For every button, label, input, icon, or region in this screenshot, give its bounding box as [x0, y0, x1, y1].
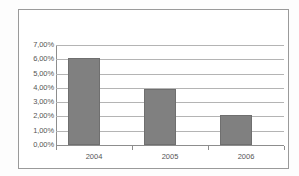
x-tick-label-2005: 2005	[132, 152, 208, 161]
y-axis-tick-labels: 7,00% 6,00% 5,00% 4,00% 3,00% 2,00% 1,00…	[19, 45, 54, 146]
chart-figure: 7,00% 6,00% 5,00% 4,00% 3,00% 2,00% 1,00…	[0, 0, 299, 176]
y-tick-label: 6,00%	[18, 55, 54, 63]
y-tick-label: 4,00%	[18, 84, 54, 92]
x-tick-mark	[284, 146, 285, 150]
x-tick-mark	[208, 146, 209, 150]
x-tick-label-2004: 2004	[56, 152, 132, 161]
x-tick-mark	[56, 146, 57, 150]
y-tick-label: 2,00%	[18, 112, 54, 120]
y-tick-label: 7,00%	[18, 41, 54, 49]
y-tick-label: 1,00%	[18, 127, 54, 135]
plot-area	[56, 45, 284, 145]
chart-frame: 7,00% 6,00% 5,00% 4,00% 3,00% 2,00% 1,00…	[18, 9, 289, 169]
y-tick-label: 5,00%	[18, 70, 54, 78]
y-tick-label: 0,00%	[18, 141, 54, 149]
gridline-0-baseline	[56, 145, 284, 146]
bar-2006[interactable]	[220, 115, 252, 145]
bar-2005[interactable]	[144, 89, 176, 145]
x-tick-mark	[132, 146, 133, 150]
gridline-7	[56, 45, 284, 46]
x-tick-label-2006: 2006	[208, 152, 284, 161]
bar-2004[interactable]	[68, 58, 100, 145]
y-tick-label: 3,00%	[18, 98, 54, 106]
